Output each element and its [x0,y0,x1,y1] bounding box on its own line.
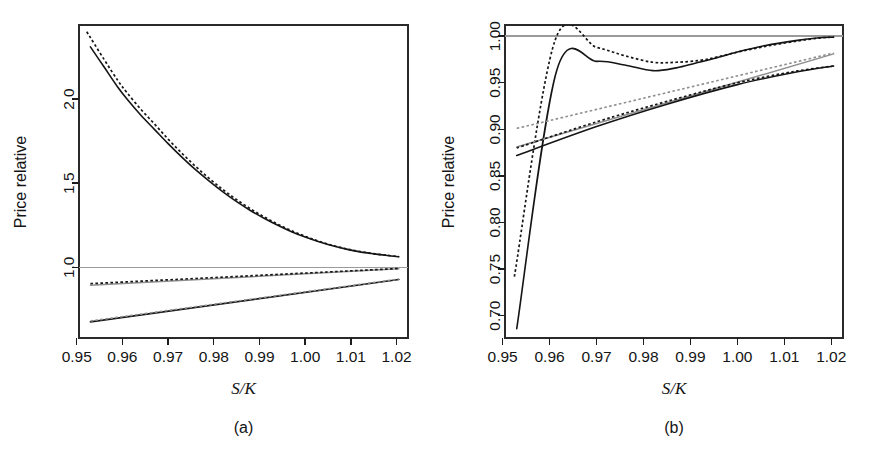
panel-b-xticklabel-1: 0.96 [535,348,565,365]
panel-b-ylabel: Price relative [440,136,457,229]
panel-a-ylabel: Price relative [12,136,29,229]
panel-a-xticklabel-2: 0.97 [153,348,183,365]
panel-a-series-upper-curve-solid [90,47,398,257]
panel-b-series-low-line-solid-dark [517,66,834,155]
panel-b-series-mid-line-dotted-gray [517,53,834,128]
panel-b-yticklabel-0: 0.70 [486,300,503,331]
panel-b-xticklabel-7: 1.02 [816,348,846,365]
panel-a-yticklabel-2: 2.0 [60,88,77,110]
panel-a-caption: (a) [234,419,254,436]
panel-b-xticklabel-5: 1.00 [722,348,753,365]
panel-b: 0.950.960.970.980.991.001.011.020.700.75… [436,0,873,454]
figure-container: 0.950.960.970.980.991.001.011.021.01.52.… [0,0,873,454]
panel-a-xticklabel-0: 0.95 [62,348,92,365]
panel-b-yticklabel-4: 0.90 [486,114,503,145]
panel-a-xticklabel-7: 1.02 [381,348,411,365]
panel-b-series-group [514,24,833,329]
panel-b-series-low-line-dotted-dark [517,66,834,148]
panel-b-yticklabel-6: 1.00 [486,21,503,52]
panel-b-caption: (b) [664,419,684,436]
panel-b-series-steep-curve-dotted [514,24,833,276]
panel-a-xticklabel-4: 0.99 [244,348,274,365]
panel-a-xticklabel-1: 0.96 [107,348,137,365]
panel-b-xticklabel-3: 0.98 [628,348,658,365]
panel-a-xlabel: S/K [231,379,257,398]
panel-b-xlabel: S/K [662,379,688,398]
panel-a-series-group [87,32,399,322]
panel-a-series-middle-line-dotted-dark [90,269,398,284]
panel-b-yticklabel-1: 0.75 [486,254,503,284]
panel-b-series-steep-curve-solid [517,37,834,329]
panel-a-yticklabel-0: 1.0 [60,256,77,278]
panel-b-yticklabel-3: 0.85 [486,161,503,191]
panel-a-plot-box [79,25,408,338]
panel-b-xticklabel-0: 0.95 [488,348,518,365]
panel-a-xticklabel-6: 1.01 [336,348,366,365]
panel-a-yticklabel-1: 1.5 [60,172,77,194]
panel-b-svg: 0.950.960.970.980.991.001.011.020.700.75… [436,0,873,454]
panel-a-xticklabel-5: 1.00 [290,348,321,365]
panel-b-yticklabel-5: 0.95 [486,68,503,98]
panel-a-svg: 0.950.960.970.980.991.001.011.021.01.52.… [0,0,437,454]
panel-b-yticklabel-2: 0.80 [486,207,503,238]
panel-b-plot-group: 0.950.960.970.980.991.001.011.020.700.75… [440,21,846,436]
panel-b-xticklabel-4: 0.99 [675,348,705,365]
panel-b-xticklabel-2: 0.97 [581,348,611,365]
panel-a-plot-group: 0.950.960.970.980.991.001.011.021.01.52.… [12,25,412,436]
panel-b-xticklabel-6: 1.01 [769,348,799,365]
panel-a: 0.950.960.970.980.991.001.011.021.01.52.… [0,0,437,454]
panel-a-series-upper-curve-dotted [87,32,399,257]
panel-a-xticklabel-3: 0.98 [199,348,229,365]
